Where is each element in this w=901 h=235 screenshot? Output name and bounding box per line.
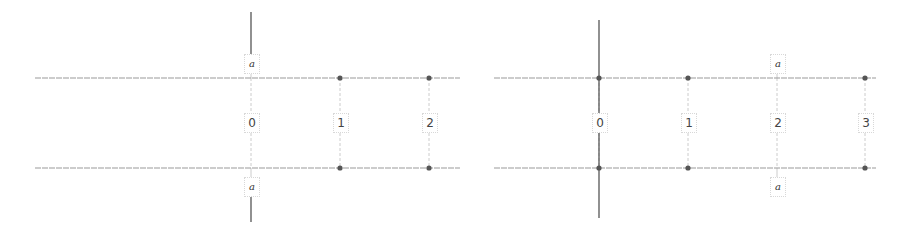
index-label: 3 <box>858 113 874 133</box>
node-dot <box>337 165 342 170</box>
node-dot <box>862 75 867 80</box>
node-dot <box>685 75 690 80</box>
index-label: 0 <box>244 113 260 133</box>
index-label: 2 <box>422 113 438 133</box>
index-label: 2 <box>770 113 786 133</box>
node-dot <box>426 165 431 170</box>
index-label: 0 <box>592 113 608 133</box>
index-label: 1 <box>333 113 349 133</box>
node-dot <box>596 165 601 170</box>
node-dot <box>426 75 431 80</box>
node-dot <box>862 165 867 170</box>
a-label: a <box>770 54 786 74</box>
a-label: a <box>244 177 260 197</box>
node-dot <box>337 75 342 80</box>
a-label: a <box>770 177 786 197</box>
node-dot <box>596 75 601 80</box>
lattice-diagram <box>0 0 901 235</box>
node-dot <box>685 165 690 170</box>
a-label: a <box>244 54 260 74</box>
index-label: 1 <box>681 113 697 133</box>
